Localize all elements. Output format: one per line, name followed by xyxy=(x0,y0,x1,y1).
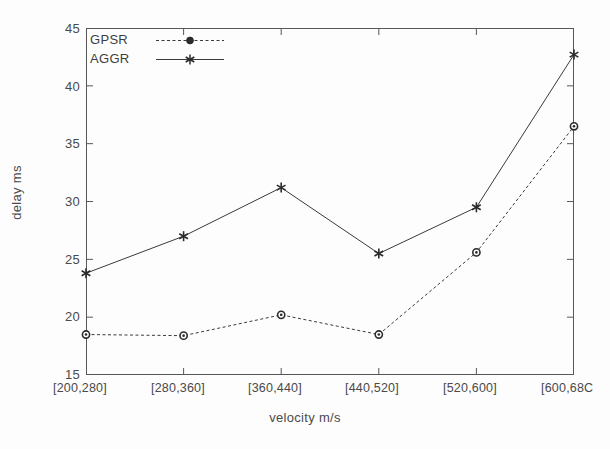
series-line-gpsr xyxy=(86,126,574,335)
data-point-gpsr-2 xyxy=(278,311,285,318)
series-line-aggr xyxy=(86,55,574,274)
y-tick-label: 40 xyxy=(44,79,80,94)
x-tick-label: [280,360] xyxy=(151,381,205,395)
data-point-gpsr-1 xyxy=(180,332,187,339)
data-point-gpsr-0 xyxy=(82,331,89,338)
legend-entry-gpsr: GPSR xyxy=(90,31,230,50)
legend-label: GPSR xyxy=(90,32,128,47)
x-tick-label: [360,440] xyxy=(248,381,302,395)
data-point-gpsr-4 xyxy=(473,249,480,256)
data-point-aggr-2 xyxy=(277,183,286,193)
x-tick-label: [440,520] xyxy=(345,381,399,395)
data-point-aggr-3 xyxy=(374,249,383,259)
legend: GPSR AGGR xyxy=(90,31,230,69)
legend-swatch-gpsr xyxy=(154,31,226,50)
legend-label: AGGR xyxy=(90,51,129,66)
y-tick-label: 30 xyxy=(44,194,80,209)
data-point-aggr-5 xyxy=(570,50,579,60)
chart-page: 45 40 35 30 25 20 15 delay ms GPSR AGGR xyxy=(0,0,610,449)
y-tick-label: 45 xyxy=(44,21,80,36)
y-tick-label: 20 xyxy=(44,309,80,324)
data-point-aggr-4 xyxy=(472,202,481,212)
legend-entry-aggr: AGGR xyxy=(90,50,230,69)
data-point-gpsr-5 xyxy=(570,123,577,130)
x-tick-label: [200,280] xyxy=(53,381,107,395)
data-point-aggr-0 xyxy=(82,268,91,278)
x-tick-label: [520,600] xyxy=(443,381,497,395)
axis-ticks xyxy=(86,28,574,375)
y-tick-label: 35 xyxy=(44,136,80,151)
data-point-aggr-1 xyxy=(179,231,188,241)
x-tick-label: [600,68C xyxy=(541,381,593,395)
legend-swatch-aggr xyxy=(154,50,226,69)
y-axis-title: delay ms xyxy=(9,153,24,233)
x-axis-tick-labels: [200,280] [280,360] [360,440] [440,520] … xyxy=(0,381,610,403)
y-tick-label: 25 xyxy=(44,252,80,267)
data-series-group xyxy=(82,50,579,340)
y-tick-label: 15 xyxy=(44,367,80,382)
data-point-gpsr-3 xyxy=(375,331,382,338)
x-axis-title: velocity m/s xyxy=(0,410,610,425)
plot-area xyxy=(86,28,574,375)
